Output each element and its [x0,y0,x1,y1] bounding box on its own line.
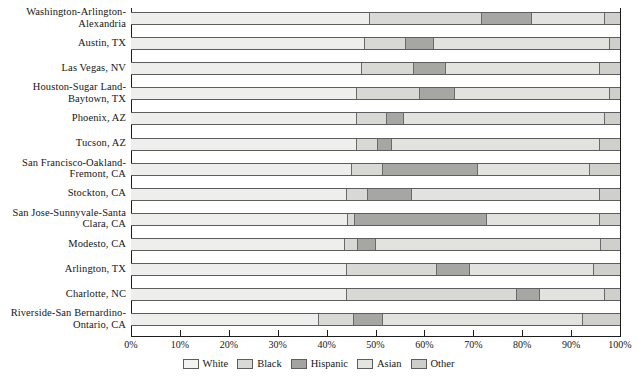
bar-segment-white [131,13,370,24]
bar-segment-other [610,38,620,49]
x-axis-tick-label: 30% [255,339,301,350]
bar-segment-hispanic [414,63,446,74]
x-axis-tick-label: 100% [597,339,637,350]
legend-item-hispanic[interactable]: Hispanic [291,358,348,369]
category-label: Las Vegas, NV [0,62,126,74]
x-axis-tick-label: 20% [206,339,252,350]
bar-segment-other [590,164,620,175]
legend-item-asian[interactable]: Asian [357,358,402,369]
stacked-bar [131,188,620,201]
category-label: San Francisco-Oakland- Fremont, CA [0,157,126,180]
legend-label: Hispanic [311,358,348,369]
legend-item-other[interactable]: Other [411,358,455,369]
bar-segment-asian [446,63,600,74]
x-axis-tick [229,330,230,337]
legend-item-white[interactable]: White [183,358,229,369]
bar-segment-hispanic [517,289,540,300]
x-axis-tick-label: 60% [401,339,447,350]
bar-segment-other [600,214,620,225]
stacked-bar-chart: Washington-Arlington- AlexandriaAustin, … [0,0,637,377]
bar-segment-hispanic [437,264,470,275]
bar-segment-asian [478,164,590,175]
bar-segment-white [131,139,357,150]
x-axis-tick [278,330,279,337]
category-label: Houston-Sugar Land- Baytown, TX [0,81,126,104]
x-axis-tick-label: 50% [353,339,399,350]
bar-segment-black [365,38,406,49]
bar-segment-other [601,239,620,250]
bar-segment-asian [487,214,600,225]
bar-segment-white [131,239,345,250]
bar-segment-asian [532,13,605,24]
bar-segment-hispanic [383,164,478,175]
x-axis-tick [522,330,523,337]
category-label: Phoenix, AZ [0,112,126,124]
bar-segment-black [345,239,358,250]
bar-segment-asian [392,139,600,150]
bar-segment-asian [404,113,605,124]
x-axis-tick-label: 80% [499,339,545,350]
bar-segment-hispanic [406,38,434,49]
bar-segment-black [347,189,368,200]
legend-label: Asian [377,358,402,369]
category-label: Tucson, AZ [0,137,126,149]
bar-segment-other [594,264,620,275]
x-axis-tick-label: 0% [108,339,154,350]
bar-segment-asian [412,189,600,200]
legend-swatch-black [237,359,253,369]
stacked-bar [131,37,620,50]
category-label: Austin, TX [0,37,126,49]
bar-segment-white [131,214,348,225]
bar-segment-asian [376,239,601,250]
bar-segment-black [348,214,355,225]
bar-segment-black [347,289,517,300]
bar-segment-white [131,113,357,124]
bar-segment-other [583,314,620,325]
bar-segment-asian [540,289,605,300]
category-label: Arlington, TX [0,263,126,275]
bar-segment-white [131,189,347,200]
bar-segment-hispanic [368,189,412,200]
bar-segment-other [600,189,620,200]
stacked-bar [131,313,620,326]
bar-segment-hispanic [378,139,392,150]
bar-segment-black [370,13,482,24]
bar-segment-hispanic [355,214,487,225]
bar-segment-black [347,264,437,275]
legend-item-black[interactable]: Black [237,358,282,369]
bar-segment-white [131,88,357,99]
stacked-bar [131,112,620,125]
bar-segment-black [352,164,383,175]
stacked-bar [131,12,620,25]
x-axis-tick [473,330,474,337]
stacked-bar [131,213,620,226]
stacked-bar [131,138,620,151]
bar-segment-asian [455,88,610,99]
category-label: Stockton, CA [0,187,126,199]
legend-swatch-white [183,359,199,369]
bar-segment-other [605,113,620,124]
category-label: Washington-Arlington- Alexandria [0,6,126,29]
stacked-bar [131,263,620,276]
bar-segment-hispanic [420,88,455,99]
legend-swatch-hispanic [291,359,307,369]
legend-label: Other [431,358,455,369]
x-axis-tick [571,330,572,337]
bar-segment-white [131,63,362,74]
category-label: Riverside-San Bernardino- Ontario, CA [0,307,126,330]
x-axis-tick-label: 70% [450,339,496,350]
bar-segment-black [357,88,420,99]
category-label: Modesto, CA [0,238,126,250]
bar-segment-hispanic [387,113,404,124]
bar-segment-white [131,314,319,325]
legend-label: Black [257,358,282,369]
stacked-bar [131,288,620,301]
category-label: San Jose-Sunnyvale-Santa Clara, CA [0,207,126,230]
bar-segment-black [357,139,378,150]
stacked-bar [131,163,620,176]
bar-segment-hispanic [482,13,532,24]
x-axis-tick [620,330,621,337]
x-axis-tick [424,330,425,337]
x-axis-tick-label: 90% [548,339,594,350]
x-axis-tick [376,330,377,337]
